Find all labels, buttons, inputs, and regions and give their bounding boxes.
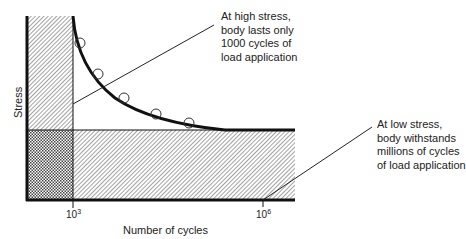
tick-exp: 6: [267, 208, 271, 215]
high-stress-region: [28, 16, 73, 130]
data-points: [75, 38, 194, 128]
data-point: [119, 93, 129, 103]
low-stress-region: [73, 130, 295, 200]
tick-base: 10: [66, 209, 77, 220]
overlap-region: [28, 130, 73, 200]
y-axis-label: Stress: [12, 87, 24, 118]
tick-label-1e6: 106: [256, 208, 271, 220]
high-stress-leader: [73, 25, 214, 104]
high-stress-annotation: At high stress, body lasts only 1000 cyc…: [221, 10, 297, 64]
sn-curve: [73, 16, 225, 130]
low-stress-annotation: At low stress, body withstands millions …: [377, 118, 466, 172]
tick-label-1e3: 103: [66, 208, 81, 220]
data-point: [93, 69, 103, 79]
tick-exp: 3: [77, 208, 81, 215]
tick-base: 10: [256, 209, 267, 220]
x-axis-label: Number of cycles: [123, 224, 208, 236]
